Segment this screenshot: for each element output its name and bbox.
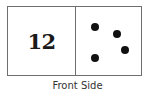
card-divider — [75, 7, 76, 75]
dot-icon — [91, 54, 99, 62]
dot-icon — [113, 30, 121, 38]
number-label: 12 — [8, 7, 75, 75]
dot-icon — [91, 23, 99, 31]
dot-icon — [121, 46, 129, 54]
domino-card: 12 — [7, 6, 142, 76]
caption: Front Side — [0, 80, 155, 91]
